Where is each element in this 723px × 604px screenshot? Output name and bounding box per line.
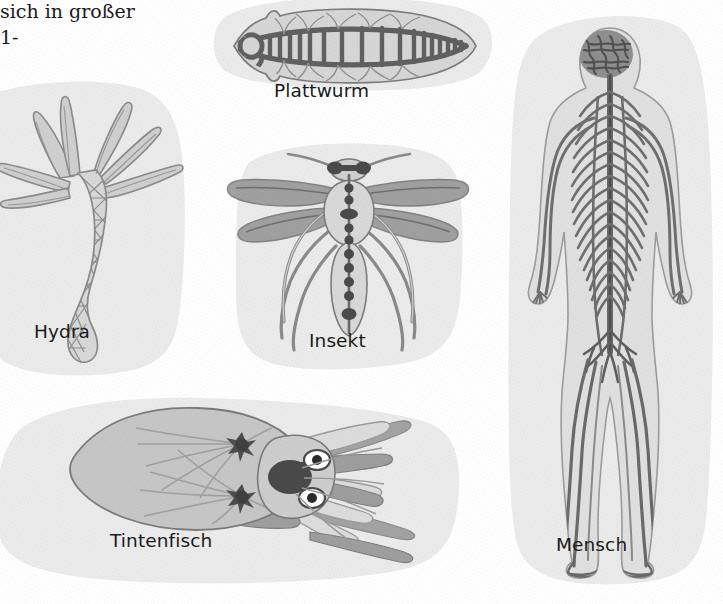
figure-insekt: Insekt [232, 142, 472, 380]
figure-tintenfisch: Tintenfisch [0, 382, 470, 604]
figure-mensch: Mensch [498, 0, 723, 604]
figure-plattwurm: Plattwurm [198, 0, 498, 104]
mensch-illustration [498, 0, 723, 604]
insekt-caption: Insekt [309, 330, 366, 351]
hydra-caption: Hydra [34, 321, 90, 342]
plattwurm-organism [228, 9, 476, 83]
body-text-line-1: sich in großer [0, 0, 135, 22]
body-text-line-2: 1- [0, 24, 210, 50]
tintenfisch-illustration [0, 382, 470, 604]
mensch-caption: Mensch [556, 534, 627, 555]
tintenfisch-caption: Tintenfisch [110, 530, 212, 551]
hydra-illustration [0, 78, 197, 378]
plattwurm-caption: Plattwurm [274, 80, 369, 101]
figure-hydra: Hydra [0, 78, 197, 378]
page-body-text: sich in großer 1- [0, 0, 210, 50]
